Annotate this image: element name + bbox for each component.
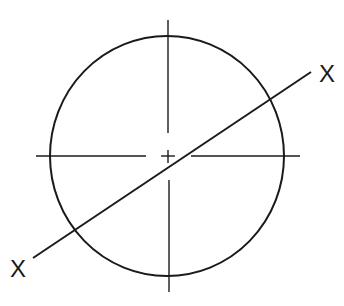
section-line-x-x [33,72,311,258]
section-label-bottom-left: X [10,257,26,281]
diagram-drawing [0,0,344,306]
section-label-top-right: X [319,62,335,86]
diagram-canvas: X X [0,0,344,306]
